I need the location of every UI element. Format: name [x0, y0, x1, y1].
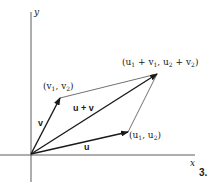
vector-v-label: v — [38, 119, 43, 128]
vector-addition-diagram: y x (v1, v2) (u1, u2) (u1 + v1, u2 + v2)… — [0, 0, 211, 182]
sum-endpoint-label: (u1 + v1, u2 + v2) — [122, 58, 198, 68]
vector-u-label: u — [84, 143, 90, 152]
figure-number: 3. — [199, 168, 207, 178]
vector-sum-label: u + v — [73, 104, 94, 113]
diagram-graphics — [0, 0, 211, 182]
u-endpoint-label: (u1, u2) — [129, 131, 161, 141]
vector-u-arrow — [31, 132, 128, 154]
x-axis-label: x — [190, 159, 195, 168]
parallelogram-top-side — [60, 74, 157, 98]
v-endpoint-label: (v1, v2) — [43, 82, 74, 92]
y-axis-label: y — [34, 8, 39, 17]
